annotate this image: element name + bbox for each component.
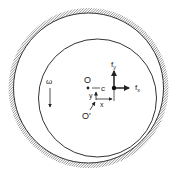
label-fy: fy (111, 60, 116, 70)
hatch-line (0, 0, 69, 176)
shaft-circle (39, 39, 157, 157)
hatch-line (0, 0, 32, 176)
label-c: c (101, 84, 105, 93)
hatch-line (0, 0, 152, 176)
hatch-line (0, 0, 40, 176)
hatch-line (0, 0, 71, 176)
hatch-line (0, 0, 131, 176)
hatch-line (0, 0, 129, 176)
hatch-line (0, 0, 43, 176)
bearing-diagram: O c fy fx y x O' ω (0, 0, 175, 176)
label-O-prime: O' (82, 111, 91, 121)
hatch-line (0, 0, 6, 176)
hatch-line (0, 0, 108, 176)
hatch-line (122, 0, 175, 176)
hatch-line (0, 0, 173, 176)
hatch-line (7, 0, 175, 176)
hatch-line (0, 0, 30, 176)
hatch-line (0, 0, 9, 176)
label-y: y (89, 92, 93, 100)
hatch-line (0, 0, 38, 176)
hatch-line (0, 0, 170, 176)
hatch-line (0, 0, 74, 176)
hatch-line (148, 0, 175, 176)
hatch-line (0, 0, 56, 176)
hatch-line (0, 0, 126, 176)
hatch-line (166, 0, 175, 176)
hatch-line (0, 0, 168, 176)
hatch-line (0, 0, 105, 176)
hatch-line (0, 0, 1, 176)
hatch-line (145, 0, 175, 176)
hatch-line (140, 0, 175, 176)
hatch-line (38, 0, 175, 176)
hatch-line (142, 0, 175, 176)
hatch-line (174, 0, 175, 176)
hatch-line (0, 0, 97, 176)
hatch-line (93, 0, 175, 176)
hatch-line (0, 0, 35, 176)
hatch-line (0, 0, 66, 176)
label-omega: ω (46, 77, 52, 86)
label-fx: fx (135, 83, 140, 93)
hatch-line (150, 0, 175, 176)
hatch-line (0, 0, 165, 176)
label-O: O (84, 75, 91, 85)
hatch-line (171, 0, 175, 176)
hatch-line (0, 0, 48, 176)
hatch-line (168, 0, 175, 176)
label-x: x (100, 101, 104, 108)
hatch-line (0, 0, 51, 176)
hatch-line (5, 0, 175, 176)
hatch-line (36, 0, 175, 176)
hatch-line (135, 0, 175, 176)
o-prime-pointer (90, 102, 95, 110)
hatch-line (0, 0, 77, 176)
bearing-center-dot (87, 87, 90, 90)
hatch-line (41, 0, 175, 176)
hatch-line (0, 0, 95, 176)
hatch-line (0, 0, 17, 176)
hatch-line (0, 0, 4, 176)
hatch-line (0, 0, 22, 176)
hatch-line (158, 0, 175, 176)
